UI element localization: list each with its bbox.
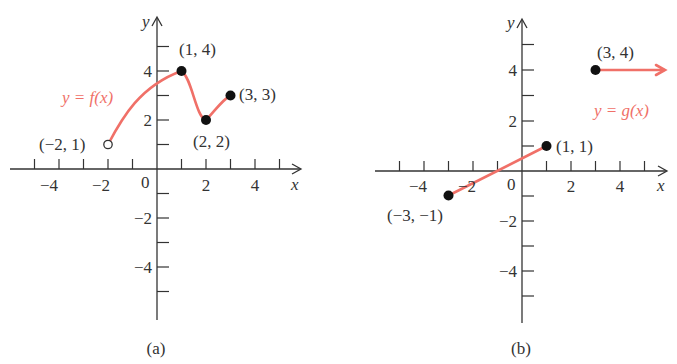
point-label: (1, 1): [556, 137, 593, 156]
x-tick-label: 4: [616, 177, 625, 196]
panel-b: y x 0 −4 −2 2 4 4 2 −2 −4 y = g(x) (3, 4…: [375, 13, 667, 358]
x-tick-label: 2: [202, 176, 211, 195]
x-axis-label: x: [656, 176, 665, 195]
y-axis-label: y: [140, 12, 150, 31]
y-ticks: [522, 45, 534, 297]
x-tick-label: −2: [92, 176, 110, 195]
panel-caption: (b): [511, 339, 531, 358]
point-label: (3, 3): [239, 85, 276, 104]
point-label: (3, 4): [597, 43, 634, 62]
panel-a: y x 0 −4 −2 2 4 4 2 −2 −4 y = f(x) (1, 4…: [10, 12, 301, 358]
y-tick-label: 2: [509, 112, 518, 131]
filled-point-icon: [177, 66, 187, 76]
x-tick-label: −4: [409, 177, 428, 196]
filled-point-icon: [201, 115, 211, 125]
function-label-g: y = g(x): [592, 101, 649, 120]
panel-caption: (a): [147, 339, 166, 358]
y-tick-label: −2: [499, 212, 517, 231]
x-tick-label: −4: [40, 176, 59, 195]
origin-label: 0: [507, 175, 516, 194]
x-tick-label: −2: [458, 177, 476, 196]
x-tick-label: 2: [567, 177, 576, 196]
point-label: (2, 2): [193, 132, 230, 151]
point-label: (1, 4): [179, 40, 216, 59]
filled-point-icon: [591, 65, 601, 75]
origin-label: 0: [141, 173, 150, 192]
function-label-f: y = f(x): [60, 88, 113, 107]
filled-point-icon: [226, 91, 236, 101]
x-tick-label: 4: [251, 176, 260, 195]
y-tick-label: 4: [509, 61, 518, 80]
y-tick-label: −2: [134, 209, 152, 228]
filled-point-icon: [444, 191, 454, 201]
point-label: (−2, 1): [39, 135, 85, 154]
y-tick-label: 2: [144, 111, 153, 130]
y-axis-label: y: [505, 13, 515, 32]
open-point-icon: [104, 140, 112, 148]
y-tick-label: −4: [499, 262, 518, 281]
filled-point-icon: [542, 141, 552, 151]
y-tick-label: 4: [144, 62, 153, 81]
point-label: (−3, −1): [387, 206, 443, 225]
x-axis-label: x: [290, 175, 299, 194]
y-tick-label: −4: [134, 258, 153, 277]
figure: y x 0 −4 −2 2 4 4 2 −2 −4 y = f(x) (1, 4…: [0, 0, 677, 364]
